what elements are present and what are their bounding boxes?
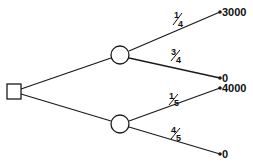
probability-label-2: 3 4 bbox=[171, 47, 181, 65]
payoff-label-1: 3000 bbox=[222, 6, 246, 18]
svg-text:5: 5 bbox=[176, 133, 181, 143]
edge-upper-branch-2 bbox=[129, 58, 220, 78]
svg-text:5: 5 bbox=[174, 98, 179, 108]
svg-text:4: 4 bbox=[178, 19, 183, 29]
decision-tree-diagram: 3000 0 4000 0 1 4 3 4 1 5 4 5 bbox=[0, 0, 253, 166]
svg-text:4: 4 bbox=[176, 55, 181, 65]
chance-node-upper bbox=[111, 46, 129, 64]
edge-decision-to-upper bbox=[21, 58, 111, 89]
probability-label-1: 1 4 bbox=[173, 10, 183, 29]
edge-decision-to-lower bbox=[21, 94, 111, 121]
payoff-label-3: 4000 bbox=[222, 82, 246, 94]
chance-node-lower bbox=[111, 115, 129, 133]
payoff-label-4: 0 bbox=[222, 148, 228, 160]
decision-node-square bbox=[7, 84, 21, 99]
